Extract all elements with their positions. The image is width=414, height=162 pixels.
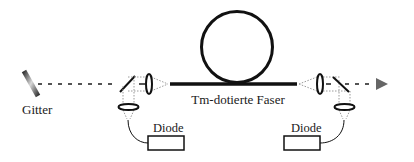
diode-right-box — [284, 136, 320, 150]
pump-beam-right — [299, 77, 350, 119]
pump-lens-right-icon — [335, 104, 355, 110]
diode-left-cable — [128, 120, 148, 143]
diode-left-label: Diode — [153, 121, 184, 135]
fiber-laser-diagram: Gitter Diode Tm-dotierte Faser — [0, 0, 414, 162]
grating-icon — [24, 71, 38, 96]
mirror-left-icon — [120, 76, 135, 92]
pump-lens-left-icon — [119, 104, 139, 110]
diode-left-box — [148, 136, 184, 150]
lens-right-icon — [317, 74, 323, 94]
diode-right-label: Diode — [291, 121, 322, 135]
lens-left-icon — [146, 74, 152, 94]
diode-right-cable — [320, 120, 344, 143]
fiber-coil-icon — [202, 12, 273, 83]
fiber-label: Tm-dotierte Faser — [191, 92, 285, 107]
grating-label: Gitter — [22, 102, 53, 117]
output-arrow-icon — [376, 78, 388, 90]
